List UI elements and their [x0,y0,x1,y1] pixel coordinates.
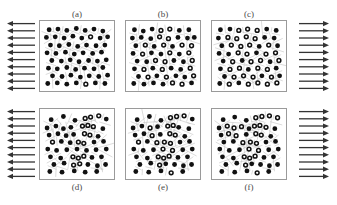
particle-filled [264,140,269,145]
particle-filled [219,133,224,138]
particle-filled [262,155,267,160]
particle-open [86,124,90,128]
particle-open [251,75,255,79]
particle-open [275,81,279,85]
particle-open [171,124,175,128]
particle-open [254,132,258,136]
particle-filled [140,124,145,129]
particle-open [167,154,171,158]
particle-filled [100,29,105,34]
particle-filled [48,154,53,159]
particle-filled [190,117,195,122]
particle-filled [54,124,59,129]
particle-filled [87,73,92,78]
particle-open [241,141,245,145]
right-arrow-column-top [298,20,330,92]
particle-filled [182,75,187,80]
particle-filled [73,118,78,123]
particle-filled [155,124,160,129]
panel-a-plot [39,20,115,92]
particle-filled [92,140,97,145]
particle-filled [45,50,50,55]
particle-filled [170,44,175,49]
particle-open [162,43,166,47]
particle-filled [53,34,58,39]
particle-filled [54,148,59,153]
particle-open [244,163,248,167]
particle-filled [68,140,73,145]
particle-open [225,124,229,128]
panel-c-plot [211,20,287,92]
particle-filled [236,80,241,85]
particle-filled [135,59,140,64]
particle-filled [100,126,105,131]
particle-open [76,140,80,144]
particle-filled [46,66,51,71]
particle-open [256,66,260,70]
particle-open [143,43,147,47]
particle-filled [149,50,154,55]
particle-open [247,147,251,151]
particle-filled [62,36,67,41]
particle-filled [92,66,97,71]
left-arrow-column-top-canvas [6,20,36,92]
load-arrow [7,35,35,40]
particle-open [169,141,173,145]
particle-filled [262,35,267,40]
load-arrow [299,35,329,40]
left-arrow-column-bottom-canvas [6,108,36,180]
particle-filled [139,35,144,40]
load-arrow [299,167,329,172]
particle-filled [56,27,61,32]
particle-filled [178,67,183,72]
particle-open [82,141,86,145]
particle-filled [244,118,249,123]
particle-filled [83,170,88,175]
panel-d-plot [39,108,115,180]
particle-filled [56,131,61,136]
load-arrow [7,28,35,33]
load-arrow [299,57,329,62]
particle-open [226,36,230,40]
load-arrow [7,109,35,114]
panel-d: (d) [39,108,115,180]
particle-filled [181,163,186,168]
particle-open [248,140,252,144]
panel-f: (f) [211,108,287,180]
load-arrow [7,152,35,157]
particle-filled [217,81,222,86]
particle-open [162,156,166,160]
contact-network [42,25,112,89]
particle-filled [244,132,249,137]
particle-open [187,51,191,55]
particle-open [91,125,95,129]
particle-filled [271,154,276,159]
particle-filled [54,51,59,56]
particle-filled [182,134,187,139]
load-arrow [7,116,35,121]
particle-filled [131,81,136,86]
particle-filled [240,58,245,63]
load-arrow [299,109,329,114]
particle-filled [61,126,66,131]
particle-open [141,52,145,56]
particle-open [163,60,167,64]
particle-open [255,171,259,175]
particle-filled [95,59,100,64]
left-arrow-column-bottom [6,108,36,180]
particle-filled [44,35,49,40]
particle-filled [105,34,110,39]
particle-filled [51,162,56,167]
load-arrow [299,64,329,69]
particle-filled [133,133,138,138]
load-arrow [299,138,329,143]
particle-filled [218,27,223,32]
particle-open [171,149,175,153]
particle-filled [57,43,62,48]
particle-filled [131,126,136,131]
particle-open [158,35,162,39]
particle-filled [176,35,181,40]
particle-filled [101,139,106,144]
load-arrow [299,131,329,136]
panel-b-label: (b) [125,9,201,19]
